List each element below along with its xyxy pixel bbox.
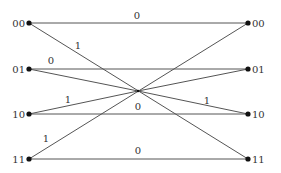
right-node-11 — [245, 156, 250, 161]
left-state-label-00: 00 — [12, 18, 25, 29]
right-state-label-01: 01 — [252, 64, 265, 75]
edge-label-10-center: 1 — [65, 94, 71, 105]
edge-label-10-10: 0 — [135, 101, 141, 112]
edge-label-01-01: 0 — [48, 55, 54, 66]
edge-10-center — [29, 91, 138, 114]
edge-label-00-00: 0 — [134, 10, 140, 21]
left-state-label-01: 01 — [12, 64, 25, 75]
left-node-01 — [26, 66, 31, 71]
edge-label-11-11: 0 — [135, 145, 141, 156]
left-node-11 — [26, 156, 31, 161]
edge-label-00-11: 1 — [75, 40, 81, 51]
right-node-00 — [245, 20, 250, 25]
right-state-label-10: 10 — [252, 109, 265, 120]
right-state-label-11: 11 — [252, 154, 265, 165]
trellis-diagram: 00 01 10 11 00 01 10 11 0 1 0 1 0 1 1 0 — [0, 0, 281, 173]
edge-label-center-10: 1 — [204, 95, 210, 106]
right-node-10 — [245, 111, 250, 116]
left-node-10 — [26, 111, 31, 116]
left-node-00 — [26, 20, 31, 25]
right-node-01 — [245, 66, 250, 71]
center-junction — [137, 90, 140, 93]
edge-center-01 — [138, 69, 248, 91]
edge-center-10 — [138, 91, 248, 114]
left-state-label-10: 10 — [12, 109, 25, 120]
trellis-svg: 00 01 10 11 00 01 10 11 0 1 0 1 0 1 1 0 — [0, 0, 281, 173]
left-state-label-11: 11 — [12, 154, 25, 165]
edge-label-11-00: 1 — [43, 133, 49, 144]
right-state-label-00: 00 — [252, 18, 265, 29]
